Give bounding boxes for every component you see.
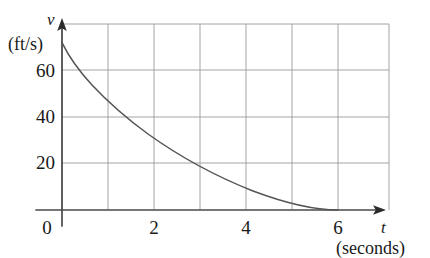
y-tick-label-60: 60: [3, 61, 55, 80]
chart-canvas: [0, 0, 430, 258]
x-tick-label-4: 4: [231, 218, 261, 237]
x-tick-label-0: 0: [32, 218, 62, 237]
horizontal-gridlines: [62, 24, 389, 163]
x-tick-label-6: 6: [323, 218, 353, 237]
y-tick-label-40: 40: [3, 107, 55, 126]
x-axis-units: (seconds): [336, 239, 405, 257]
y-axis-units: (ft/s): [8, 35, 43, 53]
x-tick-label-2: 2: [139, 218, 169, 237]
y-tick-label-20: 20: [3, 153, 55, 172]
velocity-time-graph: v (ft/s) 60 40 20 0 2 4 6 t (seconds): [0, 0, 430, 258]
y-axis-name: v: [47, 11, 55, 28]
axis-lines: [36, 26, 378, 226]
x-axis-name: t: [381, 219, 386, 236]
